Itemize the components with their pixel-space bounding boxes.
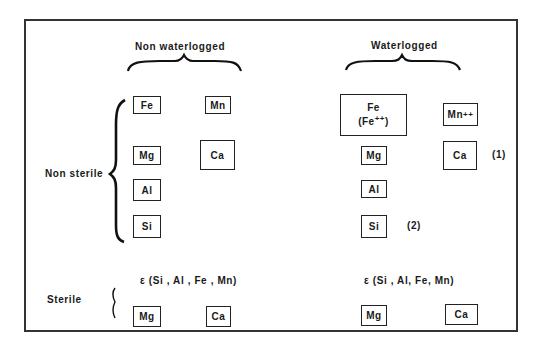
element-box-ca: Ca [200,140,235,170]
element-box-al: Al [133,179,161,201]
element-box-ca-sterile-waterlogged: Ca [445,304,478,325]
trace-elements-non-waterlogged: ε (Si , Al , Fe , Mn) [140,275,237,286]
element-box-mn: Mn [205,96,231,114]
brace-waterlogged-icon [346,55,460,70]
row-label-non-sterile: Non sterile [45,168,103,179]
brace-non-waterlogged-icon [128,55,241,71]
note-1: (1) [492,149,506,160]
element-box-fe-waterlogged: Fe (Fe++) [340,94,407,136]
element-box-ca-sterile: Ca [206,306,231,327]
element-box-mn-waterlogged: Mn++ [443,103,478,126]
brace-sterile-icon [113,288,115,318]
element-box-mg-waterlogged: Mg [361,146,387,165]
element-box-si: Si [133,215,161,238]
element-box-ca-waterlogged: Ca [443,141,477,170]
element-box-mg: Mg [133,146,161,165]
element-box-fe: Fe [133,96,161,114]
element-box-al-waterlogged: Al [361,180,387,198]
element-box-mg-sterile-waterlogged: Mg [361,305,387,326]
trace-elements-waterlogged: ε (Si , Al, Fe, Mn) [364,275,454,286]
column-label-non-waterlogged: Non waterlogged [135,41,225,52]
brace-non-sterile-icon [110,100,125,242]
element-box-mg-sterile: Mg [133,306,161,327]
row-label-sterile: Sterile [47,294,82,305]
column-label-waterlogged: Waterlogged [371,40,438,51]
element-box-si-waterlogged: Si [361,215,387,238]
fe-ion-label: (Fe++) [358,115,389,129]
note-2: (2) [407,220,421,231]
